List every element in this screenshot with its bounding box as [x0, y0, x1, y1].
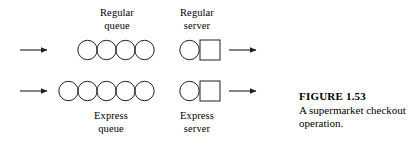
label-regular-queue-line1: Regular: [88, 7, 146, 20]
express-queue-customer-3: [97, 81, 116, 100]
express-server-customer: [180, 81, 199, 100]
figure-container: Regular queue Regular server Express que…: [0, 0, 414, 150]
label-regular-server-line1: Regular: [168, 7, 226, 20]
label-express-server-line1: Express: [168, 110, 226, 123]
regular-queue-customer-3: [116, 40, 135, 59]
express-queue-customer-4: [116, 81, 135, 100]
regular-server-customer: [180, 40, 199, 59]
regular-queue-customer-1: [78, 40, 97, 59]
figure-caption: FIGURE 1.53 A supermarket checkout opera…: [299, 90, 411, 131]
express-lane-group: [20, 81, 256, 101]
figure-caption-text: A supermarket checkout operation.: [299, 104, 411, 131]
label-express-queue-line2: queue: [82, 123, 140, 136]
label-express-server-line2: server: [168, 123, 226, 136]
label-express-server: Express server: [168, 110, 226, 135]
express-server-station: [200, 81, 220, 101]
label-regular-queue-line2: queue: [88, 20, 146, 33]
regular-server-station: [200, 40, 220, 60]
label-regular-queue: Regular queue: [88, 7, 146, 32]
label-express-queue-line1: Express: [82, 110, 140, 123]
regular-lane-group: [20, 40, 256, 60]
label-regular-server-line2: server: [168, 20, 226, 33]
regular-queue-customer-2: [97, 40, 116, 59]
label-express-queue: Express queue: [82, 110, 140, 135]
express-queue-customer-2: [78, 81, 97, 100]
label-regular-server: Regular server: [168, 7, 226, 32]
regular-queue-customer-4: [135, 40, 154, 59]
express-queue-customer-1: [59, 81, 78, 100]
figure-caption-title: FIGURE 1.53: [299, 90, 411, 104]
express-queue-customer-5: [135, 81, 154, 100]
